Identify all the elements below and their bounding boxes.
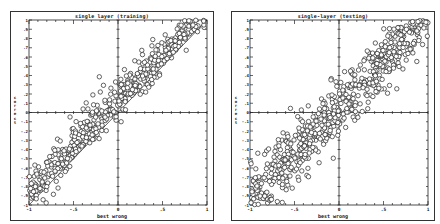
svg-text:-.3: -.3 (242, 138, 250, 143)
svg-text:0: 0 (117, 207, 120, 212)
svg-text:-.6: -.6 (242, 166, 250, 171)
svg-text:1: 1 (427, 207, 430, 212)
svg-text:-.6: -.6 (21, 166, 29, 171)
svg-text:-.5: -.5 (69, 207, 77, 212)
svg-text:-.9: -.9 (242, 193, 250, 198)
training-panel: -1-.9-.8-.7-.6-.5-.4-.3-.2-.10.1.2.3.4.5… (10, 11, 214, 221)
svg-text:-.9: -.9 (21, 193, 29, 198)
svg-text:.1: .1 (23, 101, 28, 106)
svg-text:.6: .6 (23, 55, 28, 60)
svg-text:.4: .4 (244, 73, 249, 78)
svg-text:-1: -1 (26, 207, 32, 212)
svg-text:.4: .4 (23, 73, 28, 78)
svg-text:.5: .5 (244, 64, 249, 69)
chart-title: single-layer (testing) (232, 13, 434, 19)
svg-text:.9: .9 (244, 27, 249, 32)
svg-text:.8: .8 (23, 36, 28, 41)
svg-text:0: 0 (247, 110, 250, 115)
svg-text:-.4: -.4 (21, 147, 29, 152)
svg-text:1: 1 (206, 207, 209, 212)
svg-text:.2: .2 (23, 92, 28, 97)
svg-text:-.3: -.3 (21, 138, 29, 143)
svg-text:.8: .8 (244, 36, 249, 41)
svg-text:-.1: -.1 (242, 119, 250, 124)
svg-text:-.7: -.7 (242, 175, 250, 180)
svg-text:-.5: -.5 (290, 207, 298, 212)
svg-text:0: 0 (26, 110, 29, 115)
svg-text:-.4: -.4 (242, 147, 250, 152)
svg-text:.3: .3 (244, 82, 249, 87)
svg-text:-.2: -.2 (242, 129, 250, 134)
svg-text:.5: .5 (23, 64, 28, 69)
svg-text:-.5: -.5 (21, 156, 29, 161)
svg-text:.7: .7 (23, 45, 28, 50)
svg-text:-.8: -.8 (242, 184, 250, 189)
svg-text:t: t (14, 120, 17, 125)
training-scatter-plot: -1-.9-.8-.7-.6-.5-.4-.3-.2-.10.1.2.3.4.5… (11, 12, 213, 220)
x-axis-label: best wrong (232, 213, 434, 219)
svg-text:.2: .2 (244, 92, 249, 97)
svg-text:-.2: -.2 (21, 129, 29, 134)
svg-text:.7: .7 (244, 45, 249, 50)
testing-panel: -1-.9-.8-.7-.6-.5-.4-.3-.2-.10.1.2.3.4.5… (231, 11, 435, 221)
svg-text:0: 0 (338, 207, 341, 212)
chart-title: single layer (training) (11, 13, 213, 19)
x-axis-label: best wrong (11, 213, 213, 219)
svg-text:.1: .1 (244, 101, 249, 106)
testing-scatter-plot: -1-.9-.8-.7-.6-.5-.4-.3-.2-.10.1.2.3.4.5… (232, 12, 434, 220)
svg-text:.3: .3 (23, 82, 28, 87)
svg-text:-.8: -.8 (21, 184, 29, 189)
svg-text:.9: .9 (23, 27, 28, 32)
svg-text:t: t (235, 120, 238, 125)
svg-text:.5: .5 (381, 207, 387, 212)
svg-text:.5: .5 (160, 207, 166, 212)
svg-text:-.1: -.1 (21, 119, 29, 124)
svg-text:.6: .6 (244, 55, 249, 60)
svg-text:-1: -1 (247, 207, 253, 212)
